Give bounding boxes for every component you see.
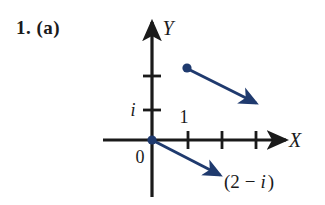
y-unit-label: i <box>130 100 135 120</box>
translated-vector-arrow <box>188 69 256 103</box>
position-vector-arrow <box>152 140 220 175</box>
x-unit-label: 1 <box>180 107 189 127</box>
origin-label: 0 <box>136 147 145 167</box>
vector-annotation: (2−i) <box>224 171 274 193</box>
vector-annotation-imag: i <box>261 171 266 192</box>
x-axis-label: X <box>288 129 302 151</box>
vector-annotation-minus: − <box>245 171 256 192</box>
complex-plane-figure: X Y 0 1 i (2−i) <box>0 0 325 205</box>
figure-page: 1. (a) X Y 0 1 i <box>0 0 325 205</box>
origin-dot <box>147 135 156 144</box>
y-axis-label: Y <box>162 17 175 39</box>
vector-annotation-real: 2 <box>230 171 240 192</box>
vector-annotation-close: ) <box>268 171 274 193</box>
translated-vector-start-dot <box>182 63 191 72</box>
